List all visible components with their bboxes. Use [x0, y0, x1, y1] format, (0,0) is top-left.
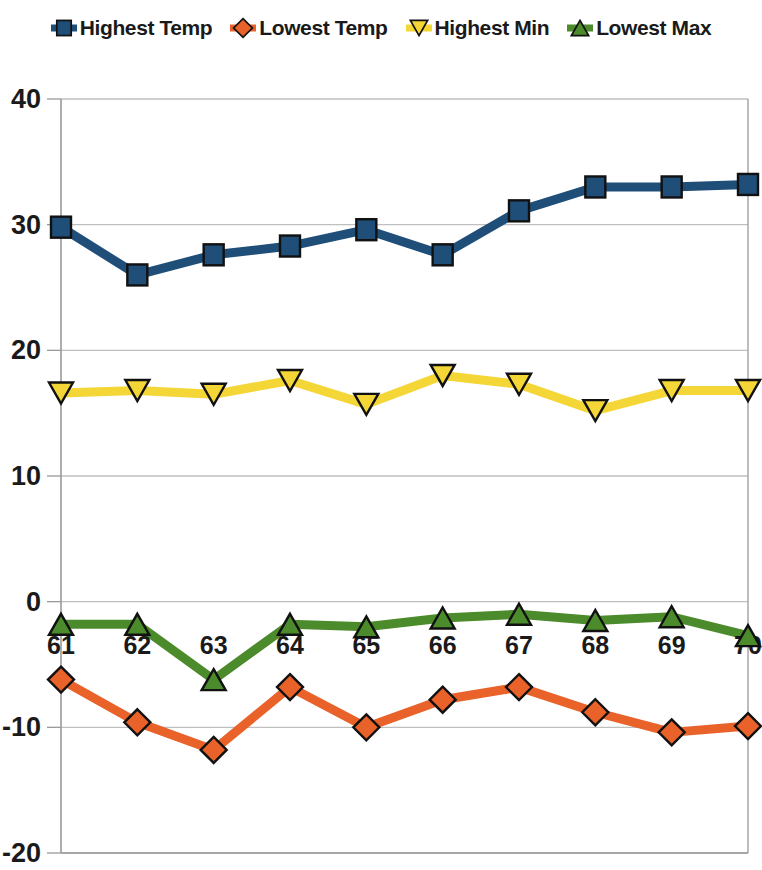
y-tick-label: -20 — [2, 838, 41, 868]
x-tick-label: 66 — [429, 631, 457, 659]
data-point-marker[interactable] — [509, 200, 529, 221]
data-point-marker[interactable] — [127, 264, 147, 285]
series-markers — [48, 174, 761, 763]
line-chart-svg: 403020100-10-20 61626364656667686970 — [0, 0, 762, 870]
x-tick-label: 63 — [200, 631, 228, 659]
series-line-highest-min — [61, 375, 748, 410]
data-point-marker[interactable] — [430, 687, 456, 713]
series-lines — [61, 184, 748, 750]
y-tick-label: 0 — [26, 587, 41, 617]
data-point-marker[interactable] — [356, 219, 376, 240]
series-line-lowest-temp — [61, 680, 748, 750]
series-line-highest-temp — [61, 184, 748, 274]
x-tick-label: 69 — [658, 631, 686, 659]
data-point-marker[interactable] — [585, 176, 605, 197]
series-line-lowest-max — [61, 614, 748, 679]
data-point-marker[interactable] — [659, 719, 685, 745]
y-tick-label: -10 — [2, 712, 41, 742]
y-tick-label: 30 — [11, 210, 41, 240]
x-tick-label: 68 — [581, 631, 609, 659]
x-tick-label: 67 — [505, 631, 533, 659]
data-point-marker[interactable] — [738, 174, 758, 195]
y-tick-label: 40 — [11, 84, 41, 114]
grid-lines — [47, 99, 748, 853]
data-point-marker[interactable] — [204, 244, 224, 265]
data-point-marker[interactable] — [582, 699, 608, 725]
data-point-marker[interactable] — [506, 674, 532, 700]
data-point-marker[interactable] — [51, 217, 71, 238]
data-point-marker[interactable] — [280, 236, 300, 257]
y-tick-label: 10 — [11, 461, 41, 491]
data-point-marker[interactable] — [662, 176, 682, 197]
data-point-marker[interactable] — [433, 244, 453, 265]
data-point-marker[interactable] — [735, 713, 761, 739]
y-tick-label: 20 — [11, 335, 41, 365]
y-axis-tick-labels: 403020100-10-20 — [2, 84, 41, 868]
chart-plot-area: 403020100-10-20 61626364656667686970 — [0, 0, 762, 870]
